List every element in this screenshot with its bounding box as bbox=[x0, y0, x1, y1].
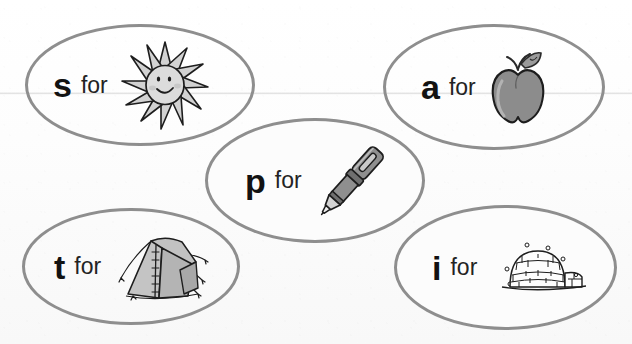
letter-a: a bbox=[421, 70, 440, 104]
card-content-i: i for bbox=[394, 205, 617, 330]
letter-p: p bbox=[245, 164, 266, 198]
for-label-t: for bbox=[74, 255, 101, 278]
letter-t: t bbox=[54, 250, 65, 284]
letter-s: s bbox=[53, 68, 72, 102]
sun-illustration bbox=[117, 36, 213, 134]
igloo-illustration bbox=[486, 237, 590, 299]
pen-illustration bbox=[311, 136, 391, 226]
for-label-p: for bbox=[275, 169, 302, 192]
worksheet-page: s for bbox=[0, 0, 632, 344]
apple-illustration bbox=[485, 48, 551, 126]
tent-illustration bbox=[110, 228, 214, 306]
card-p-for-pen[interactable]: p for bbox=[205, 118, 425, 243]
letter-i: i bbox=[432, 251, 441, 285]
for-label-i: for bbox=[450, 256, 477, 279]
for-label-s: for bbox=[81, 74, 108, 97]
card-content-p: p for bbox=[205, 118, 425, 243]
card-i-for-igloo[interactable]: i for bbox=[394, 205, 617, 330]
for-label-a: for bbox=[449, 76, 476, 99]
